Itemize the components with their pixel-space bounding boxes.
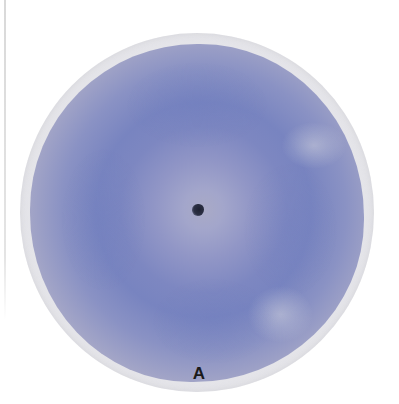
page-edge-line: [4, 0, 6, 320]
figure-label: A: [189, 364, 209, 384]
